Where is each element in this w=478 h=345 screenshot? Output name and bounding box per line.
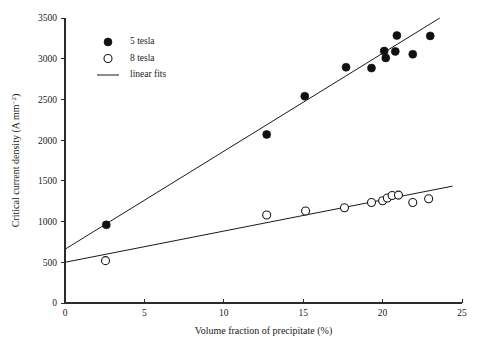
legend-marker-8-tesla <box>104 55 112 63</box>
data-point <box>301 92 309 100</box>
y-tick-label: 2000 <box>38 136 57 146</box>
data-point <box>367 64 375 72</box>
data-point <box>393 32 401 40</box>
data-point <box>302 207 310 215</box>
axes-group: 05001000150020002500300035000510152025 <box>38 13 467 318</box>
y-tick-label: 0 <box>52 298 57 308</box>
scatter-plot: 05001000150020002500300035000510152025 5… <box>0 0 478 345</box>
data-point <box>425 195 433 203</box>
x-tick-label: 15 <box>298 308 308 318</box>
y-tick-label: 1000 <box>38 217 57 227</box>
data-point <box>394 191 402 199</box>
legend-label: 5 tesla <box>130 36 155 46</box>
y-axis-title: Critical current density (A mm−2) <box>10 94 22 228</box>
chart-figure: 05001000150020002500300035000510152025 5… <box>0 0 478 345</box>
data-point <box>102 221 110 229</box>
x-tick-label: 25 <box>457 308 467 318</box>
y-tick-label: 2500 <box>38 95 57 105</box>
data-point <box>342 63 350 71</box>
x-axis-title: Volume fraction of precipitate (%) <box>195 325 333 337</box>
data-point <box>382 54 390 62</box>
data-point <box>367 198 375 206</box>
y-tick-label: 3500 <box>38 13 57 23</box>
legend-label: 8 tesla <box>130 53 155 63</box>
data-point <box>263 211 271 219</box>
chart-legend: 5 tesla8 teslalinear fits <box>97 36 166 79</box>
data-point <box>409 50 417 58</box>
data-point <box>426 32 434 40</box>
x-tick-label: 5 <box>142 308 147 318</box>
x-tick-label: 20 <box>378 308 388 318</box>
x-tick-label: 10 <box>219 308 229 318</box>
data-point <box>409 198 417 206</box>
y-tick-label: 1500 <box>38 176 57 186</box>
legend-marker-5-tesla <box>104 38 112 46</box>
y-tick-label: 3000 <box>38 54 57 64</box>
x-tick-label: 0 <box>63 308 68 318</box>
data-point <box>101 257 109 265</box>
data-point-group <box>101 32 434 265</box>
data-point <box>263 130 271 138</box>
data-point <box>340 204 348 212</box>
legend-label: linear fits <box>130 69 166 79</box>
data-point <box>391 47 399 55</box>
y-tick-label: 500 <box>43 258 58 268</box>
